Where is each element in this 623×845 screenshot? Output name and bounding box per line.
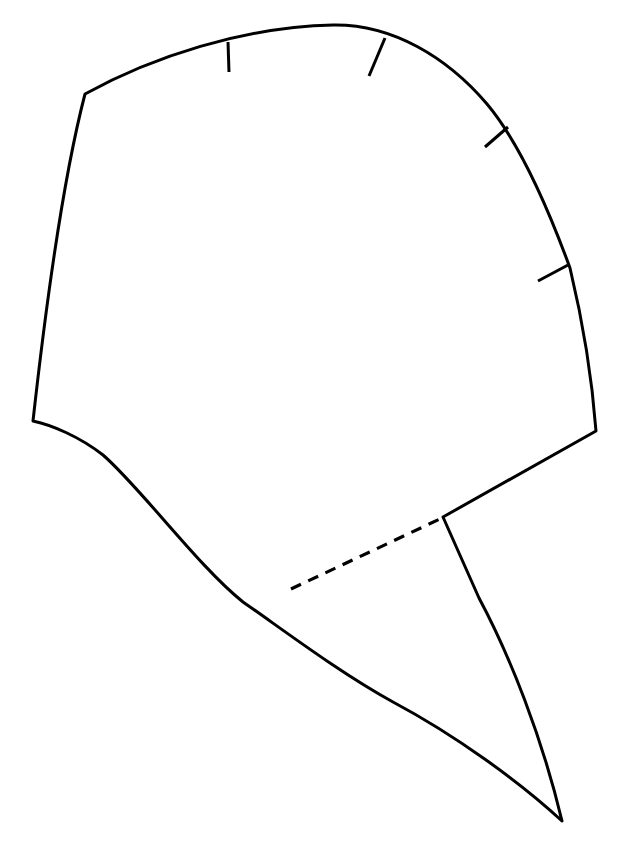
- pattern-drawing: [0, 0, 623, 845]
- notch-mark-1: [228, 42, 229, 72]
- pattern-canvas: [0, 0, 623, 845]
- canvas-background: [0, 0, 623, 845]
